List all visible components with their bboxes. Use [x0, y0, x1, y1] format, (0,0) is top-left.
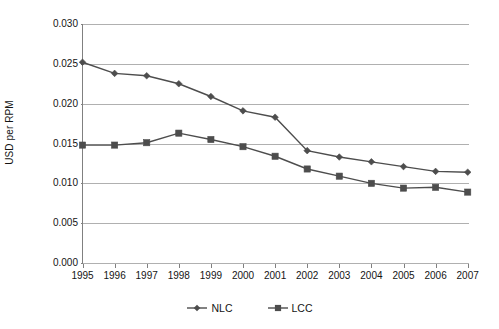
legend-label: NLC — [211, 303, 232, 314]
x-tick-mark — [307, 264, 308, 268]
x-tick-mark — [243, 264, 244, 268]
y-axis-ticks: 0.0000.0050.0100.0150.0200.0250.030 — [22, 24, 78, 263]
line-chart: USD per RPM 0.0000.0050.0100.0150.0200.0… — [0, 0, 499, 329]
y-tick-label: 0.010 — [26, 178, 78, 188]
chart-legend: NLCLCC — [0, 297, 499, 319]
gridline — [83, 24, 469, 25]
y-tick-label: 0.020 — [26, 99, 78, 109]
legend-label: LCC — [292, 303, 313, 314]
x-tick-label: 2007 — [448, 270, 488, 281]
y-tick-label: 0.025 — [26, 59, 78, 69]
legend-item-nlc[interactable]: NLC — [186, 302, 232, 314]
x-tick-mark — [83, 264, 84, 268]
x-tick-mark — [275, 264, 276, 268]
gridline — [83, 104, 469, 105]
square-marker-icon — [267, 302, 289, 314]
x-tick-mark — [404, 264, 405, 268]
diamond-marker-icon — [186, 302, 208, 314]
gridline — [83, 64, 469, 65]
y-tick-label: 0.015 — [26, 139, 78, 149]
gridlines — [83, 24, 469, 263]
x-tick-mark — [211, 264, 212, 268]
x-tick-mark — [115, 264, 116, 268]
x-tick-mark — [339, 264, 340, 268]
x-tick-mark — [468, 264, 469, 268]
gridline — [83, 223, 469, 224]
y-axis-title: USD per RPM — [0, 0, 18, 265]
y-axis-title-text: USD per RPM — [4, 100, 15, 164]
y-tick-label: 0.030 — [26, 19, 78, 29]
x-tick-mark — [371, 264, 372, 268]
y-tick-label: 0.005 — [26, 218, 78, 228]
x-tick-mark — [179, 264, 180, 268]
x-axis-ticks: 1995199619971998199920002001200220032004… — [82, 264, 468, 286]
x-tick-mark — [147, 264, 148, 268]
x-tick-mark — [436, 264, 437, 268]
gridline — [83, 144, 469, 145]
plot-area — [82, 24, 469, 264]
legend-item-lcc[interactable]: LCC — [267, 302, 313, 314]
gridline — [83, 183, 469, 184]
y-tick-label: 0.000 — [26, 258, 78, 268]
